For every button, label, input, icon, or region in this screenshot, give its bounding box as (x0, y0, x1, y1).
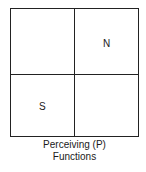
quadrant-label-top-right: N (103, 39, 110, 49)
vertical-divider (74, 9, 75, 136)
caption-line-1: Perceiving (P) (10, 139, 139, 151)
diagram-caption: Perceiving (P) Functions (10, 139, 139, 163)
quadrant-grid: N S (10, 8, 139, 137)
caption-line-2: Functions (10, 151, 139, 163)
quadrant-label-bottom-left: S (39, 102, 46, 112)
horizontal-divider (11, 74, 138, 75)
